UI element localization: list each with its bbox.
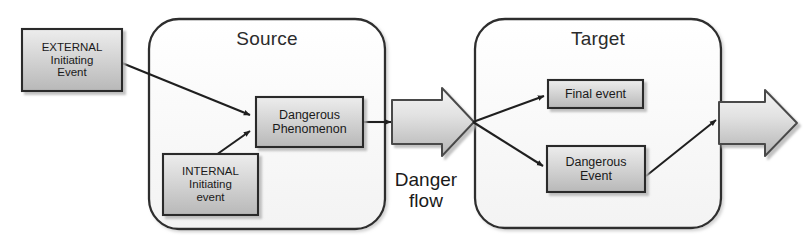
node-final-event <box>548 80 643 108</box>
node-dangerous-event <box>547 146 645 192</box>
node-dangerous-phenomenon <box>256 97 363 147</box>
container-target <box>475 19 721 228</box>
diagram-canvas <box>0 0 812 246</box>
block-arrow-output <box>719 90 797 156</box>
block-arrow-danger-flow <box>392 88 474 156</box>
node-external-initiating-event <box>22 29 122 91</box>
danger-flow-diagram: Source Target EXTERNAL Initiating Event … <box>0 0 812 246</box>
node-internal-initiating-event <box>163 154 258 215</box>
